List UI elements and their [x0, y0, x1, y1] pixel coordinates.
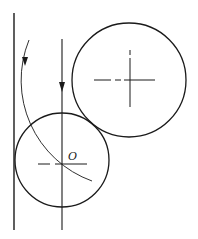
center-label-o: O	[68, 150, 77, 163]
large-circle-center-mark	[94, 50, 155, 107]
axis-arrow-down-icon	[59, 82, 65, 92]
mechanics-diagram: O	[0, 0, 198, 239]
